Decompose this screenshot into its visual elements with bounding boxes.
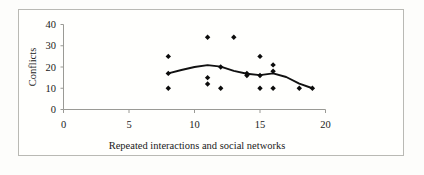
x-tick-label-10: 10 (189, 119, 200, 130)
data-point (270, 62, 275, 67)
data-point (205, 35, 210, 40)
data-point (166, 86, 171, 91)
data-point (166, 54, 171, 59)
y-tick-label-20: 20 (46, 62, 57, 73)
data-point (218, 64, 223, 69)
data-point (257, 54, 262, 59)
data-point (205, 75, 210, 80)
data-point (205, 81, 210, 86)
trend-line (168, 65, 312, 88)
x-tick-marks (64, 110, 326, 114)
x-tick-label-5: 5 (126, 119, 131, 130)
data-point (310, 86, 315, 91)
data-point (166, 71, 171, 76)
data-point (297, 86, 302, 91)
y-tick-label-10: 10 (46, 83, 57, 94)
chart-figure: 40 30 20 10 0 0 5 10 15 20 Repeated inte… (0, 0, 424, 175)
data-point (218, 86, 223, 91)
data-point (257, 86, 262, 91)
x-axis-title: Repeated interactions and social network… (109, 140, 286, 151)
y-tick-label-40: 40 (46, 19, 57, 30)
x-tick-label-0: 0 (61, 119, 66, 130)
data-point-group (166, 35, 316, 91)
y-tick-label-0: 0 (51, 104, 56, 115)
x-tick-label-20: 20 (320, 119, 331, 130)
data-point (231, 35, 236, 40)
y-tick-label-30: 30 (46, 40, 57, 51)
x-tick-label-15: 15 (255, 119, 266, 130)
scatter-plot: 40 30 20 10 0 0 5 10 15 20 Repeated inte… (0, 0, 424, 175)
data-point (257, 73, 262, 78)
y-axis-title: Conflicts (27, 48, 38, 87)
data-point (270, 86, 275, 91)
